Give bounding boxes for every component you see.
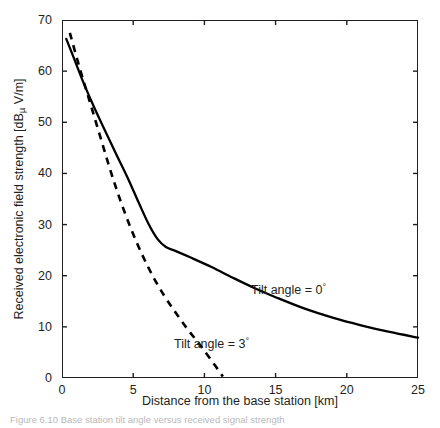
annotation-tilt-angle-0: Tilt angle = 0° (251, 282, 326, 297)
x-axis-title: Distance from the base station [km] (62, 394, 418, 408)
figure-caption: Figure 6.10 Base station tilt angle vers… (10, 414, 430, 425)
y-axis-title-suffix: V/m] (12, 78, 26, 107)
y-axis-title-mu: µ (16, 108, 27, 113)
degree-icon: ° (245, 336, 249, 346)
y-axis-title-prefix: Received electronic field strength [dB (12, 113, 26, 319)
degree-icon: ° (322, 282, 326, 292)
annotation-tilt-0-text: Tilt angle = 0 (251, 283, 322, 297)
annotation-tilt-3-text: Tilt angle = 3 (174, 337, 245, 351)
y-axis-title: Received electronic field strength [dBµ … (12, 20, 30, 378)
figure-container: 010203040506070 0510152025 Received elec… (0, 0, 440, 428)
annotation-tilt-angle-3: Tilt angle = 3° (174, 336, 249, 351)
plot-frame (62, 20, 418, 378)
